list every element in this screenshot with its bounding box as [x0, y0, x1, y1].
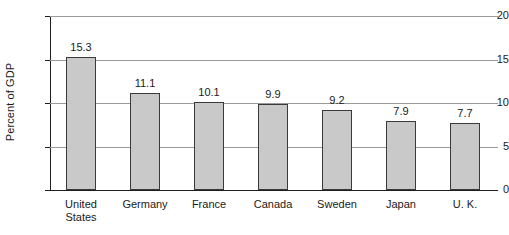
- bar-value-label: 7.7: [434, 108, 496, 119]
- bar-value-label: 11.1: [114, 78, 176, 89]
- bar-value-label: 9.9: [242, 89, 304, 100]
- bar-value-label: 9.2: [306, 95, 368, 106]
- x-category-label: Japan: [370, 198, 432, 211]
- gridline-0: [50, 190, 498, 191]
- bar[interactable]: [194, 102, 224, 190]
- bar[interactable]: [450, 123, 480, 190]
- bar-value-label: 7.9: [370, 106, 432, 117]
- plot-area: 15.311.110.19.99.27.97.7: [50, 16, 498, 190]
- bar-chart: Percent of GDP 05101520 15.311.110.19.99…: [0, 0, 509, 235]
- x-category-label: United States: [50, 198, 112, 224]
- x-category-label: Canada: [242, 198, 304, 211]
- bar[interactable]: [258, 104, 288, 190]
- x-category-label: France: [178, 198, 240, 211]
- bar-value-label: 15.3: [50, 42, 112, 53]
- bar[interactable]: [130, 93, 160, 190]
- bar-group: 9.9: [242, 16, 304, 190]
- bar-group: 7.9: [370, 16, 432, 190]
- bar-group: 7.7: [434, 16, 496, 190]
- bar-group: 15.3: [50, 16, 112, 190]
- bar[interactable]: [322, 110, 352, 190]
- bar[interactable]: [386, 121, 416, 190]
- bar-value-label: 10.1: [178, 87, 240, 98]
- bar-group: 9.2: [306, 16, 368, 190]
- y-axis-title: Percent of GDP: [4, 42, 16, 162]
- bar-group: 10.1: [178, 16, 240, 190]
- bar-group: 11.1: [114, 16, 176, 190]
- x-category-label: Sweden: [306, 198, 368, 211]
- x-category-label: U. K.: [434, 198, 496, 211]
- x-category-label: Germany: [114, 198, 176, 211]
- bar[interactable]: [66, 57, 96, 190]
